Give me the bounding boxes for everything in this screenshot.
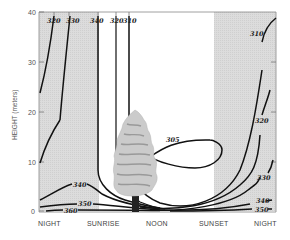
label-340-left: 340 (73, 181, 87, 189)
y-tick-30: 30 (28, 59, 36, 66)
y-tick-0: 0 (31, 208, 35, 215)
x-label-noon: NOON (146, 220, 168, 227)
label-330-top: 330 (66, 17, 80, 25)
label-350-right: 350 (255, 206, 269, 214)
label-360-left: 360 (64, 207, 78, 215)
y-tick-20: 20 (28, 109, 36, 116)
label-305-center: 305 (166, 136, 180, 144)
x-label-sunset: SUNSET (199, 220, 229, 227)
x-label-sunrise: SUNRISE (87, 220, 120, 227)
label-310-top: 310 (123, 17, 137, 25)
y-tick-10: 10 (28, 159, 36, 166)
isopleth-chart: 40 30 20 10 0 HEIGHT (meters) NIGHT SUNR… (0, 0, 290, 240)
top-labels: 320 330 340 320 310 (47, 17, 137, 25)
y-tick-40: 40 (28, 9, 36, 16)
tree-trunk (132, 196, 139, 212)
label-320-top: 320 (47, 17, 61, 25)
isopleth-305-loop (148, 140, 222, 168)
label-350-left: 350 (78, 200, 92, 208)
tree-illustration (113, 110, 157, 212)
label-320b-top: 320 (110, 17, 124, 25)
tree-foliage (113, 110, 157, 196)
label-340-top: 340 (90, 17, 104, 25)
y-axis-title: HEIGHT (meters) (11, 90, 19, 140)
label-320-right: 320 (255, 117, 269, 125)
x-label-night-left: NIGHT (38, 220, 61, 227)
x-label-night-right: NIGHT (254, 220, 277, 227)
night-shading-left (39, 12, 99, 211)
label-310-right: 310 (250, 30, 264, 38)
label-330-right: 330 (257, 174, 271, 182)
label-340-right: 340 (256, 197, 270, 205)
